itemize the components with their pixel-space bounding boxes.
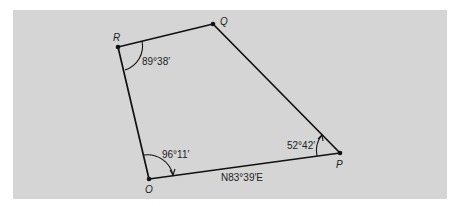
vertex-label-p: P xyxy=(336,159,343,170)
angle-label-r: 89°38′ xyxy=(142,56,170,67)
bearing-label-op: N83°39′E xyxy=(221,172,263,183)
vertex-label-q: Q xyxy=(220,16,228,27)
vertex-label-r: R xyxy=(113,32,120,43)
vertex-q-dot xyxy=(211,22,216,27)
vertex-o-dot xyxy=(147,177,152,182)
vertex-p-dot xyxy=(338,151,343,156)
angle-label-p: 52°42′ xyxy=(287,140,315,151)
diagram-background xyxy=(13,10,447,199)
traverse-diagram: R Q P O 89°38′ 96°11′ 52°42′ N83°39′E xyxy=(0,0,458,206)
vertex-label-o: O xyxy=(145,184,153,195)
angle-label-o: 96°11′ xyxy=(162,149,190,160)
vertex-r-dot xyxy=(116,45,121,50)
